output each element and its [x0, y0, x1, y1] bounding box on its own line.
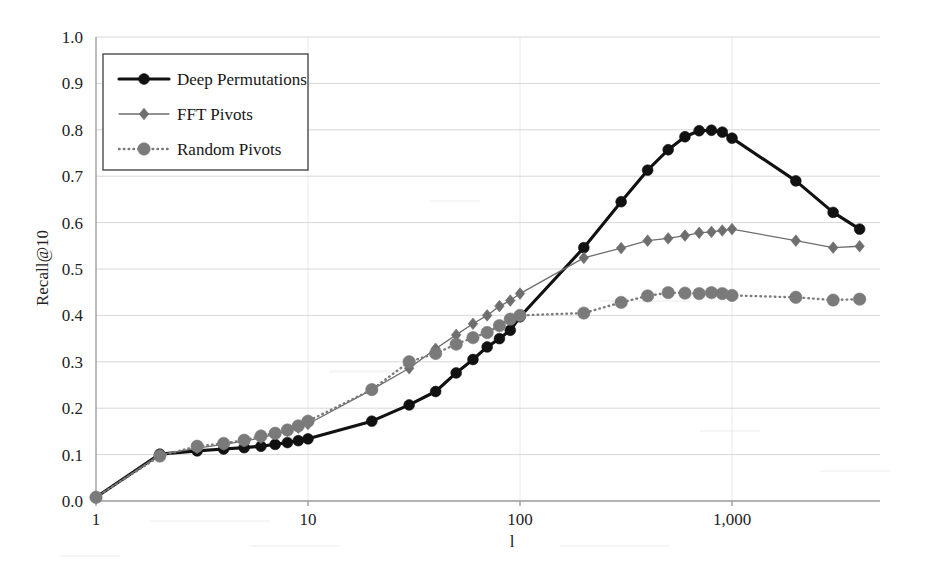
y-axis-title: Recall@10	[33, 230, 52, 306]
data-point-marker	[717, 127, 728, 138]
data-point-marker	[154, 450, 166, 462]
recall-vs-l-chart: 0.00.10.20.30.40.50.60.70.80.91.0 110100…	[0, 0, 930, 570]
data-point-marker	[481, 326, 493, 338]
data-point-marker	[853, 293, 865, 305]
data-point-marker	[727, 133, 738, 144]
x-axis-title: l	[510, 532, 515, 551]
data-point-marker	[505, 325, 516, 336]
scan-smudge	[600, 300, 690, 302]
data-point-marker	[468, 354, 479, 365]
legend-label: FFT Pivots	[177, 105, 253, 124]
data-point-marker	[616, 196, 627, 207]
data-point-marker	[694, 125, 705, 136]
data-point-marker	[191, 440, 203, 452]
figure-container: 0.00.10.20.30.40.50.60.70.80.91.0 110100…	[0, 0, 930, 570]
data-point-marker	[270, 439, 281, 450]
data-point-marker	[693, 287, 705, 299]
y-tick-label: 0.6	[62, 214, 83, 233]
data-point-marker	[482, 342, 493, 353]
data-point-marker	[366, 416, 377, 427]
y-tick-label: 0.7	[62, 167, 84, 186]
data-point-marker	[303, 433, 314, 444]
y-tick-label: 0.0	[62, 492, 83, 511]
data-point-marker	[828, 207, 839, 218]
data-point-marker	[255, 430, 267, 442]
data-point-marker	[366, 383, 378, 395]
y-tick-label: 0.5	[62, 260, 83, 279]
data-point-marker	[403, 356, 415, 368]
data-point-marker	[302, 415, 314, 427]
data-point-marker	[578, 242, 589, 253]
scan-smudge	[560, 545, 670, 547]
scan-smudge	[250, 545, 340, 547]
y-tick-label: 0.8	[62, 121, 83, 140]
scan-smudge	[430, 200, 480, 202]
y-tick-label: 0.3	[62, 353, 83, 372]
y-tick-label: 0.1	[62, 446, 83, 465]
data-point-marker	[615, 296, 627, 308]
chart-legend: Deep PermutationsFFT PivotsRandom Pivots	[103, 54, 308, 170]
legend-label: Random Pivots	[177, 140, 281, 159]
data-point-marker	[451, 368, 462, 379]
data-point-marker	[680, 131, 691, 142]
y-tick-label: 0.9	[62, 74, 83, 93]
data-point-marker	[790, 175, 801, 186]
data-point-marker	[450, 338, 462, 350]
data-point-marker	[138, 143, 150, 155]
data-point-marker	[238, 434, 250, 446]
data-point-marker	[705, 286, 717, 298]
data-point-marker	[90, 491, 102, 503]
data-point-marker	[430, 386, 441, 397]
scan-smudge	[820, 470, 890, 472]
data-point-marker	[663, 144, 674, 155]
data-point-marker	[578, 307, 590, 319]
scan-smudge	[150, 520, 270, 522]
data-point-marker	[514, 309, 526, 321]
data-point-marker	[790, 291, 802, 303]
data-point-marker	[854, 224, 865, 235]
scan-smudge	[700, 430, 760, 432]
x-tick-label: 1,000	[713, 510, 751, 529]
data-point-marker	[429, 347, 441, 359]
x-tick-label: 1	[92, 510, 101, 529]
legend-label: Deep Permutations	[177, 70, 307, 89]
y-tick-label: 1.0	[62, 28, 83, 47]
data-point-marker	[293, 435, 304, 446]
data-point-marker	[493, 319, 505, 331]
data-point-marker	[494, 333, 505, 344]
x-tick-label: 100	[507, 510, 533, 529]
data-point-marker	[642, 165, 653, 176]
data-point-marker	[706, 125, 717, 136]
scan-smudge	[60, 555, 120, 557]
x-tick-label: 10	[300, 510, 317, 529]
data-point-marker	[467, 331, 479, 343]
data-point-marker	[726, 289, 738, 301]
y-tick-label: 0.2	[62, 399, 83, 418]
data-point-marker	[282, 437, 293, 448]
data-point-marker	[679, 287, 691, 299]
data-point-marker	[269, 427, 281, 439]
data-point-marker	[139, 74, 150, 85]
scan-smudge	[330, 370, 400, 373]
data-point-marker	[662, 286, 674, 298]
y-tick-label: 0.4	[62, 306, 84, 325]
data-point-marker	[281, 424, 293, 436]
data-point-marker	[404, 400, 415, 411]
data-point-marker	[827, 294, 839, 306]
data-point-marker	[217, 437, 229, 449]
